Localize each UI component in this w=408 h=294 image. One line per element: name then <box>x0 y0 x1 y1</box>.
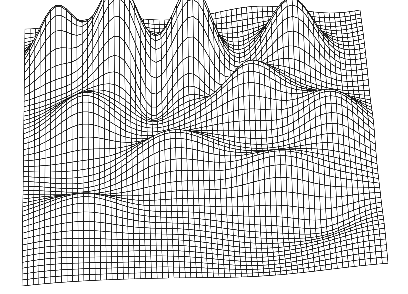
wireframe-surface-canvas <box>0 0 408 294</box>
surface-plot-figure <box>0 0 408 294</box>
